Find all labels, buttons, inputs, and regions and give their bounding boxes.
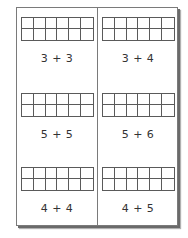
problem-cell: 5 + 6 [98, 84, 178, 156]
ten-frame-grid [21, 167, 94, 191]
problem-label: 3 + 4 [98, 52, 178, 65]
problem-cell: 4 + 5 [98, 158, 178, 230]
problem-cell: 3 + 4 [98, 8, 178, 80]
ten-frame-grid [21, 93, 94, 117]
ten-frame-grid [102, 93, 175, 117]
ten-frame-grid [21, 17, 94, 41]
problem-label: 4 + 4 [17, 202, 97, 215]
problem-label: 5 + 6 [98, 128, 178, 141]
problem-label: 3 + 3 [17, 52, 97, 65]
problem-cell: 5 + 5 [17, 84, 97, 156]
problem-label: 5 + 5 [17, 128, 97, 141]
ten-frame-grid [102, 167, 175, 191]
worksheet-card: 3 + 3 3 + 4 5 + 5 5 + 6 4 + 4 4 + 5 [16, 7, 178, 226]
problem-cell: 3 + 3 [17, 8, 97, 80]
ten-frame-grid [102, 17, 175, 41]
problem-cell: 4 + 4 [17, 158, 97, 230]
problem-label: 4 + 5 [98, 202, 178, 215]
